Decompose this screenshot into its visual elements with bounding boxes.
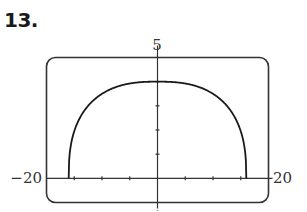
axes — [47, 46, 273, 212]
y-max-label: 5 — [152, 36, 162, 54]
graph: 5 −20 20 — [0, 0, 307, 211]
x-max-label: 20 — [273, 169, 292, 187]
x-min-label: −20 — [10, 169, 42, 187]
